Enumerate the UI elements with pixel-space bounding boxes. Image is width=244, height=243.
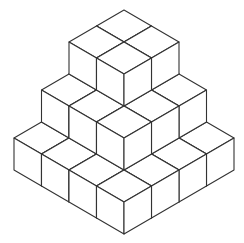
cube-pyramid-diagram bbox=[0, 0, 244, 243]
